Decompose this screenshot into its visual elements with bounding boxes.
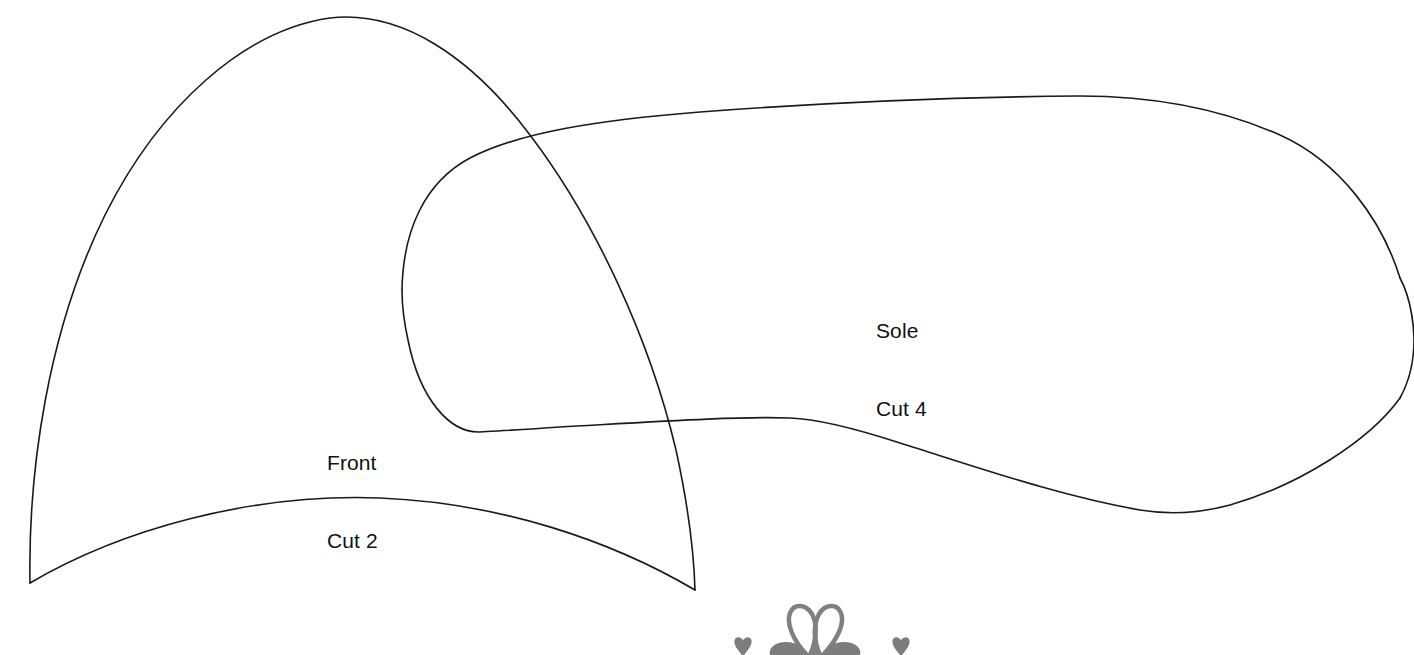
flourish-right-sprig-icon (892, 637, 909, 655)
pattern-sheet: Front Cut 2 Sole Cut 4 (0, 0, 1414, 655)
floral-flourish-ornament (734, 606, 909, 655)
sole-piece-top-edge (402, 96, 1400, 290)
sole-piece-label: Sole Cut 4 (876, 266, 927, 474)
sole-piece-right-end (1400, 278, 1414, 398)
pattern-drawing (0, 0, 1414, 655)
sole-piece-name: Sole (876, 318, 927, 344)
front-piece-cut-count: Cut 2 (327, 528, 378, 554)
flourish-left-sprig-icon (734, 637, 751, 655)
front-piece-label: Front Cut 2 (327, 398, 378, 606)
sole-piece-cut-count: Cut 4 (876, 396, 927, 422)
front-piece-name: Front (327, 450, 378, 476)
